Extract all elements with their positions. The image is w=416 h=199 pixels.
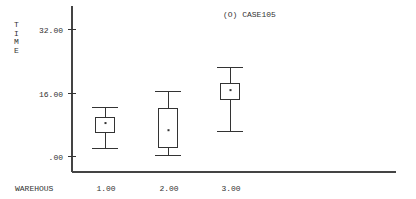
- box-plot-item: [92, 108, 118, 149]
- y-axis-label-char: E: [14, 46, 19, 55]
- x-axis-label: WAREHOUS: [15, 184, 54, 193]
- mean-marker: [230, 89, 232, 91]
- mean-marker: [105, 122, 107, 124]
- mean-marker: [168, 129, 170, 131]
- interquartile-box: [159, 109, 178, 148]
- x-tick-label: 1.00: [96, 184, 115, 193]
- y-tick-label: .00: [49, 153, 64, 162]
- box-plot-item: [155, 92, 181, 156]
- y-axis-ticks: .0016.0032.00: [39, 26, 76, 162]
- x-tick-label: 2.00: [159, 184, 178, 193]
- y-tick-label: 32.00: [39, 26, 63, 35]
- box-series: [92, 68, 243, 156]
- chart-title: (O) CASE105: [223, 10, 276, 19]
- box-plot-item: [217, 68, 243, 132]
- box-plot-chart: (O) CASE105 TIME .0016.0032.00 WAREHOUS …: [0, 0, 416, 199]
- x-axis-tick-labels: 1.002.003.00: [96, 184, 240, 193]
- y-tick-label: 16.00: [39, 90, 63, 99]
- x-tick-label: 3.00: [221, 184, 240, 193]
- interquartile-box: [96, 118, 115, 133]
- interquartile-box: [221, 84, 240, 100]
- y-axis-label: TIME: [14, 20, 19, 55]
